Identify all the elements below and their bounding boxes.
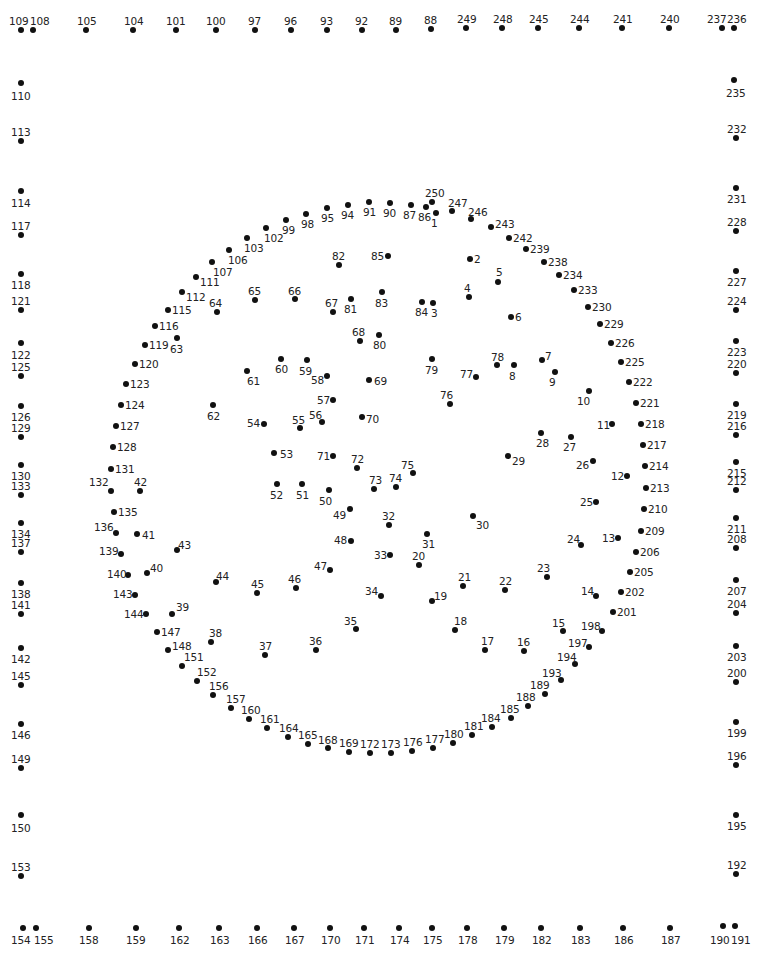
dot-point[interactable] xyxy=(371,486,377,492)
dot-point[interactable] xyxy=(430,300,436,306)
dot-point[interactable] xyxy=(615,535,621,541)
dot-point[interactable] xyxy=(132,361,138,367)
dot-point[interactable] xyxy=(577,925,583,931)
dot-point[interactable] xyxy=(173,27,179,33)
dot-point[interactable] xyxy=(499,25,505,31)
dot-point[interactable] xyxy=(359,27,365,33)
dot-point[interactable] xyxy=(18,271,24,277)
dot-point[interactable] xyxy=(428,26,434,32)
dot-point[interactable] xyxy=(244,368,250,374)
dot-point[interactable] xyxy=(586,388,592,394)
dot-point[interactable] xyxy=(541,259,547,265)
dot-point[interactable] xyxy=(348,538,354,544)
dot-point[interactable] xyxy=(502,587,508,593)
dot-point[interactable] xyxy=(733,762,739,768)
dot-point[interactable] xyxy=(552,369,558,375)
dot-point[interactable] xyxy=(508,715,514,721)
dot-point[interactable] xyxy=(450,740,456,746)
dot-point[interactable] xyxy=(633,400,639,406)
dot-point[interactable] xyxy=(482,647,488,653)
dot-point[interactable] xyxy=(367,750,373,756)
dot-point[interactable] xyxy=(108,466,114,472)
dot-point[interactable] xyxy=(18,765,24,771)
dot-point[interactable] xyxy=(429,356,435,362)
dot-point[interactable] xyxy=(130,27,136,33)
dot-point[interactable] xyxy=(640,442,646,448)
dot-point[interactable] xyxy=(20,925,26,931)
dot-point[interactable] xyxy=(366,199,372,205)
dot-point[interactable] xyxy=(18,645,24,651)
dot-point[interactable] xyxy=(18,138,24,144)
dot-point[interactable] xyxy=(18,373,24,379)
dot-point[interactable] xyxy=(733,643,739,649)
dot-point[interactable] xyxy=(620,925,626,931)
dot-point[interactable] xyxy=(354,465,360,471)
dot-point[interactable] xyxy=(508,314,514,320)
dot-point[interactable] xyxy=(488,224,494,230)
dot-point[interactable] xyxy=(388,750,394,756)
dot-point[interactable] xyxy=(733,487,739,493)
dot-point[interactable] xyxy=(263,225,269,231)
dot-point[interactable] xyxy=(719,25,725,31)
dot-point[interactable] xyxy=(303,211,309,217)
dot-point[interactable] xyxy=(460,583,466,589)
dot-point[interactable] xyxy=(18,873,24,879)
dot-point[interactable] xyxy=(593,499,599,505)
dot-point[interactable] xyxy=(165,647,171,653)
dot-point[interactable] xyxy=(731,77,737,83)
dot-point[interactable] xyxy=(610,609,616,615)
dot-point[interactable] xyxy=(304,357,310,363)
dot-point[interactable] xyxy=(535,25,541,31)
dot-point[interactable] xyxy=(642,463,648,469)
dot-point[interactable] xyxy=(473,374,479,380)
dot-point[interactable] xyxy=(216,925,222,931)
dot-point[interactable] xyxy=(641,506,647,512)
dot-point[interactable] xyxy=(299,481,305,487)
dot-point[interactable] xyxy=(18,27,24,33)
dot-point[interactable] xyxy=(385,253,391,259)
dot-point[interactable] xyxy=(733,268,739,274)
dot-point[interactable] xyxy=(732,923,738,929)
dot-point[interactable] xyxy=(424,531,430,537)
dot-point[interactable] xyxy=(348,296,354,302)
dot-point[interactable] xyxy=(246,716,252,722)
dot-point[interactable] xyxy=(386,522,392,528)
dot-point[interactable] xyxy=(666,25,672,31)
dot-point[interactable] xyxy=(667,925,673,931)
dot-point[interactable] xyxy=(624,473,630,479)
dot-point[interactable] xyxy=(452,627,458,633)
dot-point[interactable] xyxy=(506,235,512,241)
dot-point[interactable] xyxy=(330,397,336,403)
dot-point[interactable] xyxy=(18,340,24,346)
dot-point[interactable] xyxy=(419,299,425,305)
dot-point[interactable] xyxy=(733,719,739,725)
dot-point[interactable] xyxy=(86,925,92,931)
dot-point[interactable] xyxy=(244,235,250,241)
dot-point[interactable] xyxy=(733,185,739,191)
dot-point[interactable] xyxy=(118,551,124,557)
dot-point[interactable] xyxy=(336,262,342,268)
dot-point[interactable] xyxy=(252,297,258,303)
dot-point[interactable] xyxy=(262,652,268,658)
dot-point[interactable] xyxy=(720,923,726,929)
dot-point[interactable] xyxy=(429,199,435,205)
dot-point[interactable] xyxy=(108,488,114,494)
dot-point[interactable] xyxy=(627,569,633,575)
dot-point[interactable] xyxy=(169,611,175,617)
dot-point[interactable] xyxy=(466,294,472,300)
dot-point[interactable] xyxy=(193,274,199,280)
dot-point[interactable] xyxy=(285,734,291,740)
dot-point[interactable] xyxy=(733,432,739,438)
dot-point[interactable] xyxy=(464,925,470,931)
dot-point[interactable] xyxy=(252,27,258,33)
dot-point[interactable] xyxy=(379,289,385,295)
dot-point[interactable] xyxy=(330,309,336,315)
dot-point[interactable] xyxy=(30,27,36,33)
dot-point[interactable] xyxy=(525,703,531,709)
dot-point[interactable] xyxy=(733,545,739,551)
dot-point[interactable] xyxy=(110,444,116,450)
dot-point[interactable] xyxy=(733,307,739,313)
dot-point[interactable] xyxy=(544,574,550,580)
dot-point[interactable] xyxy=(633,549,639,555)
dot-point[interactable] xyxy=(733,338,739,344)
